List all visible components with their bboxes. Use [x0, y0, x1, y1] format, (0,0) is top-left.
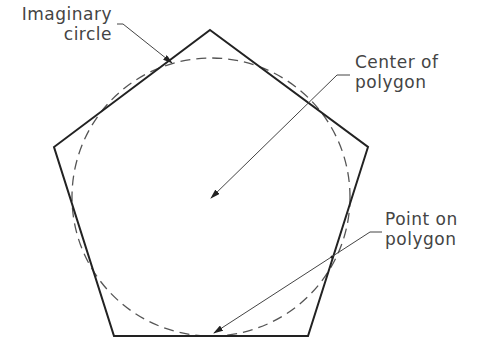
label-line: Imaginary: [14, 4, 112, 24]
leader-imaginary-circle: [117, 24, 172, 63]
imaginary-circle-shape: [72, 58, 350, 336]
label-line: polygon: [355, 72, 439, 92]
label-line: polygon: [385, 229, 458, 249]
leader-center-of-polygon: [211, 75, 350, 198]
leader-point-on-polygon: [214, 232, 382, 333]
label-center-of-polygon: Center of polygon: [355, 52, 439, 92]
label-line: Point on: [385, 209, 458, 229]
label-line: circle: [14, 24, 112, 44]
pentagon-shape: [54, 30, 368, 336]
label-point-on-polygon: Point on polygon: [385, 209, 458, 249]
label-imaginary-circle: Imaginary circle: [14, 4, 112, 44]
label-line: Center of: [355, 52, 439, 72]
point-marker: [331, 256, 334, 259]
